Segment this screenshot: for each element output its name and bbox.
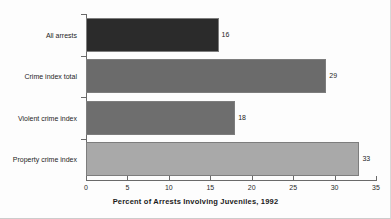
bar — [86, 59, 326, 93]
bar-chart: 05101520253035 16291833 All arrestsCrime… — [0, 0, 391, 219]
bar — [86, 142, 359, 176]
x-tick — [86, 176, 87, 181]
x-tick-label: 0 — [84, 184, 88, 191]
x-tick — [335, 176, 336, 181]
bar-value-label: 29 — [329, 72, 337, 79]
category-label: Crime index total — [24, 73, 77, 80]
category-label: Property crime index — [13, 156, 77, 163]
y-tick — [81, 56, 86, 57]
category-label: All arrests — [46, 31, 77, 38]
x-tick-label: 10 — [165, 184, 173, 191]
x-tick-label: 35 — [372, 184, 380, 191]
bar-value-label: 16 — [222, 31, 230, 38]
bar-value-label: 33 — [362, 155, 370, 162]
bar — [86, 18, 219, 52]
y-axis-top-cap — [81, 14, 86, 15]
x-tick — [127, 176, 128, 181]
x-tick-label: 5 — [125, 184, 129, 191]
x-tick — [293, 176, 294, 181]
bar — [86, 101, 235, 135]
x-tick — [169, 176, 170, 181]
category-label: Violent crime index — [18, 114, 77, 121]
x-tick-label: 20 — [248, 184, 256, 191]
x-tick — [210, 176, 211, 181]
y-tick — [81, 139, 86, 140]
bar-value-label: 18 — [238, 114, 246, 121]
y-tick — [81, 97, 86, 98]
x-tick-label: 15 — [206, 184, 214, 191]
x-axis-title: Percent of Arrests Involving Juveniles, … — [0, 197, 391, 206]
x-tick — [252, 176, 253, 181]
x-axis-line — [86, 180, 376, 181]
x-tick-label: 25 — [289, 184, 297, 191]
x-tick — [376, 176, 377, 181]
x-tick-label: 30 — [331, 184, 339, 191]
